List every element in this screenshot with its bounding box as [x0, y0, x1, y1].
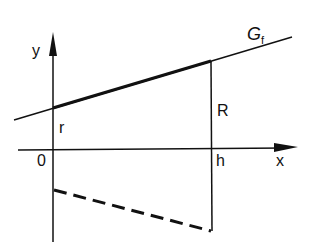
graph-segment-thick — [53, 61, 211, 108]
x-axis-arrow-icon — [274, 143, 298, 152]
cone-generator-diagram: y x 0 r R h Gf — [0, 0, 312, 242]
x-axis — [18, 148, 286, 150]
r-label: r — [59, 119, 65, 136]
graph-name-label: Gf — [247, 24, 265, 46]
y-axis-label: y — [32, 42, 40, 59]
h-label: h — [216, 152, 225, 169]
origin-label: 0 — [37, 152, 46, 169]
vertical-line-h — [211, 61, 212, 231]
R-label: R — [217, 102, 229, 119]
dashed-mirror-segment — [54, 190, 211, 231]
x-axis-label: x — [276, 152, 284, 169]
y-axis-arrow-icon — [49, 32, 57, 56]
